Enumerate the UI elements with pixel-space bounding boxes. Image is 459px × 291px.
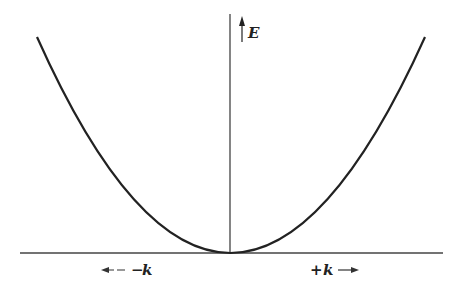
parabola-curve xyxy=(37,37,425,253)
positive-k-label: k xyxy=(323,261,333,279)
positive-sign: + xyxy=(310,261,323,279)
dispersion-diagram: E − k + k xyxy=(0,0,459,291)
left-arrow-icon xyxy=(101,267,126,273)
right-arrow-icon xyxy=(338,267,359,273)
energy-label: E xyxy=(247,24,260,42)
negative-k-label: k xyxy=(142,261,152,279)
energy-arrow-icon xyxy=(239,16,245,42)
